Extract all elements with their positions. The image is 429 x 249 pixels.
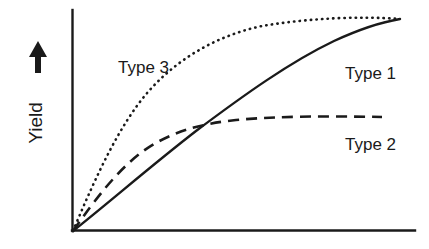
curve-label-type2: Type 2 <box>345 135 396 155</box>
curve-type3-dotted <box>73 18 400 231</box>
chart-plot-area <box>0 0 429 249</box>
curve-label-type3: Type 3 <box>118 58 169 78</box>
curve-label-type1: Type 1 <box>345 64 396 84</box>
yield-response-chart: Yield Type 3 Type 1 Type 2 <box>0 0 429 249</box>
y-axis-label: Yield <box>25 79 47 167</box>
curve-type1-solid <box>73 19 400 231</box>
up-arrow-icon <box>26 40 50 74</box>
